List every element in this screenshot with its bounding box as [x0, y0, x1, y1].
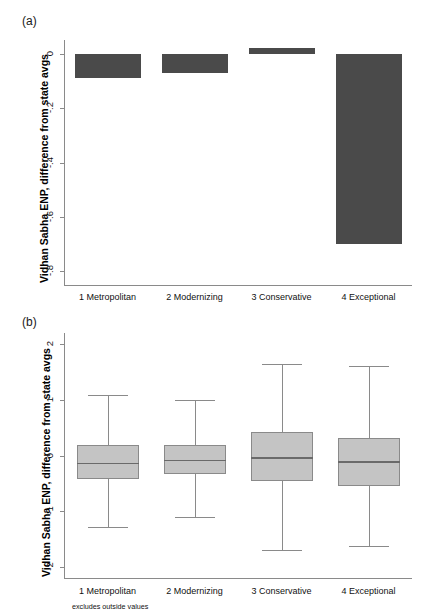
y-tick-mark — [60, 271, 64, 272]
y-tick-mark — [60, 400, 64, 401]
whisker-line-lower-3 — [282, 481, 283, 550]
y-tick-label: 1 — [44, 392, 55, 406]
y-tick-label: 0 — [44, 448, 55, 462]
bar-3 — [249, 48, 315, 53]
category-label-2: 2 Modernizing — [151, 292, 238, 302]
panel-b-y-axis-line — [64, 333, 65, 578]
y-tick-mark — [60, 567, 64, 568]
panel-a: (a) Vidhan Sabha ENP, difference from st… — [0, 0, 424, 305]
whisker-cap-upper-4 — [349, 366, 389, 367]
category-label-1: 1 Metropolitan — [64, 292, 151, 302]
whisker-cap-lower-1 — [88, 527, 128, 528]
category-label-4: 4 Exceptional — [325, 586, 412, 596]
category-label-3: 3 Conservative — [238, 586, 325, 596]
median-line-3 — [251, 457, 313, 459]
whisker-cap-lower-3 — [262, 550, 302, 551]
y-tick-label: -2 — [44, 559, 55, 573]
panel-b-x-axis-line — [64, 578, 412, 579]
whisker-cap-upper-3 — [262, 364, 302, 365]
panel-b-letter: (b) — [22, 315, 37, 329]
y-tick-mark — [60, 108, 64, 109]
whisker-cap-lower-4 — [349, 546, 389, 547]
y-tick-label: -.4 — [44, 155, 55, 169]
y-tick-mark — [60, 54, 64, 55]
whisker-line-upper-1 — [108, 395, 109, 445]
panel-b-plot-area: 210-1-2 — [64, 333, 412, 583]
panel-a-letter: (a) — [22, 14, 37, 28]
y-tick-mark — [60, 511, 64, 512]
category-label-2: 2 Modernizing — [151, 586, 238, 596]
y-tick-mark — [60, 217, 64, 218]
bar-2 — [162, 54, 228, 73]
y-tick-label: 0 — [44, 46, 55, 60]
median-line-2 — [164, 460, 226, 462]
whisker-cap-upper-1 — [88, 395, 128, 396]
y-tick-label: -.6 — [44, 209, 55, 223]
y-tick-mark — [60, 456, 64, 457]
whisker-line-lower-2 — [195, 474, 196, 517]
y-tick-label: -.2 — [44, 101, 55, 115]
category-label-1: 1 Metropolitan — [64, 586, 151, 596]
whisker-cap-upper-2 — [175, 400, 215, 401]
bar-4 — [336, 54, 402, 245]
y-tick-label: -.8 — [44, 264, 55, 278]
median-line-4 — [338, 461, 400, 463]
panel-b-y-axis-title: Vidhan Sabha ENP, difference from state … — [40, 348, 52, 577]
category-label-3: 3 Conservative — [238, 292, 325, 302]
whisker-line-upper-4 — [369, 366, 370, 438]
whisker-line-upper-3 — [282, 364, 283, 432]
whisker-cap-lower-2 — [175, 517, 215, 518]
y-tick-mark — [60, 344, 64, 345]
panel-a-x-axis-line — [64, 285, 412, 286]
whisker-line-lower-4 — [369, 486, 370, 546]
y-tick-mark — [60, 163, 64, 164]
median-line-1 — [77, 463, 139, 465]
category-label-4: 4 Exceptional — [325, 292, 412, 302]
y-tick-label: -1 — [44, 504, 55, 518]
whisker-line-lower-1 — [108, 479, 109, 527]
panel-b: (b) Vidhan Sabha ENP, difference from st… — [0, 305, 424, 610]
bar-1 — [75, 54, 141, 79]
panel-a-plot-area: 0-.2-.4-.6-.8 — [64, 40, 412, 290]
whisker-line-upper-2 — [195, 400, 196, 445]
panel-b-note: excludes outside values — [72, 602, 148, 610]
panel-a-y-axis-line — [64, 40, 65, 285]
y-tick-label: 2 — [44, 337, 55, 351]
